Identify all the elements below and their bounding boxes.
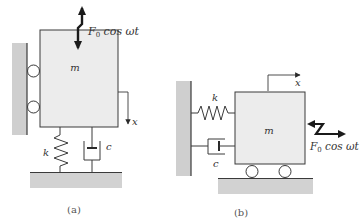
damper-icon-b — [191, 139, 235, 154]
force-label-a: F0 cos ωt — [87, 25, 140, 39]
ground-a — [30, 173, 122, 189]
rollers-b — [246, 166, 291, 178]
force-label-b: F0 cos ωt — [309, 140, 360, 154]
displacement-arrow-icon-a — [118, 92, 128, 124]
mass-label-a: m — [70, 62, 79, 73]
spring-label-b: k — [212, 92, 218, 103]
panel-b: m k c x — [176, 75, 360, 218]
wall-a — [12, 43, 27, 135]
force-arrow-icon-b — [307, 120, 346, 138]
damper-label-b: c — [213, 158, 219, 169]
displacement-label-a: x — [132, 116, 138, 127]
spring-icon-a — [54, 127, 68, 172]
panel-a: m F0 cos ωt x k c — [12, 6, 140, 215]
displacement-label-b: x — [295, 77, 301, 88]
ground-b — [218, 179, 313, 195]
mass-label-b: m — [264, 125, 273, 136]
spring-label-a: k — [43, 147, 49, 158]
caption-b: (b) — [234, 207, 248, 218]
spring-icon-b — [191, 106, 235, 120]
damper-label-a: c — [106, 141, 112, 152]
caption-a: (a) — [67, 204, 81, 215]
rollers-a — [28, 65, 40, 113]
damper-icon-a — [84, 127, 100, 172]
wall-b — [176, 81, 191, 176]
